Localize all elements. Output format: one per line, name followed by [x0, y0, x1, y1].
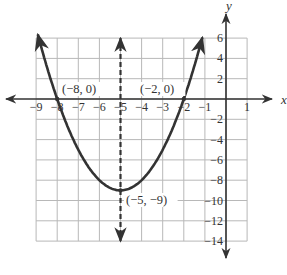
y-tick-label: 2: [217, 72, 223, 86]
y-tick-label: −12: [204, 214, 223, 228]
x-tick-label: −4: [135, 100, 148, 114]
y-axis-label: y: [224, 0, 232, 13]
y-tick-label: −4: [210, 133, 223, 147]
x-axis-label: x: [280, 92, 287, 107]
point-right-intercept: [182, 97, 186, 101]
x-tick-label: −9: [30, 100, 43, 114]
y-tick-label: 4: [217, 51, 223, 65]
label-right-intercept: (−2, 0): [140, 82, 174, 96]
axes: xy: [6, 0, 287, 258]
y-tick-label: −2: [210, 112, 223, 126]
y-tick-label: −10: [204, 194, 223, 208]
x-tick-label: −3: [156, 100, 169, 114]
parabola-graph: xy −9−8−7−6−5−4−3−2−11642−2−4−6−8−10−12−…: [0, 0, 287, 275]
label-left-intercept: (−8, 0): [62, 82, 96, 96]
y-tick-label: −8: [210, 173, 223, 187]
x-tick-label: −6: [93, 100, 106, 114]
y-tick-label: −6: [210, 153, 223, 167]
point-left-intercept: [55, 97, 59, 101]
x-tick-label: −7: [72, 100, 85, 114]
y-tick-label: 6: [217, 31, 223, 45]
label-vertex: (−5, −9): [126, 193, 167, 207]
curves: [38, 34, 203, 241]
x-tick-label: 1: [244, 100, 250, 114]
y-tick-label: −14: [204, 234, 223, 248]
point-vertex: [118, 188, 122, 192]
